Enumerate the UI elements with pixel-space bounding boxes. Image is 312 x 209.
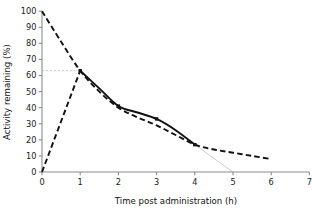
end-point-marker xyxy=(193,143,196,146)
x-tick-label: 5 xyxy=(230,177,235,187)
peak-point-marker xyxy=(79,69,82,72)
y-tick-label: 60 xyxy=(26,70,36,80)
y-tick-label: 40 xyxy=(26,103,36,113)
mid-point-marker xyxy=(117,104,120,107)
x-tick-label: 4 xyxy=(192,177,197,187)
absorption-phase-line xyxy=(42,71,80,172)
x-tick-label: 1 xyxy=(78,177,83,187)
y-tick-label: 80 xyxy=(26,38,36,48)
y-tick-label: 10 xyxy=(26,151,36,161)
observed-activity-line xyxy=(80,71,195,145)
x-axis-tick-labels: 01234567 xyxy=(39,177,312,187)
x-axis: 01234567 xyxy=(39,172,312,187)
x-tick-label: 2 xyxy=(116,177,121,187)
x-tick-label: 3 xyxy=(154,177,159,187)
y-tick-label: 100 xyxy=(21,6,37,16)
x-axis-title: Time post administration (h) xyxy=(114,196,237,206)
chart-canvas: 0102030405060708090100 01234567 Time pos… xyxy=(0,0,312,209)
data-series xyxy=(42,11,271,172)
y-tick-label: 50 xyxy=(26,87,36,97)
y-axis-title: Activity remaining (%) xyxy=(2,44,12,140)
observed-data-markers xyxy=(79,69,197,146)
y-axis-tick-labels: 0102030405060708090100 xyxy=(21,6,37,177)
y-axis: 0102030405060708090100 xyxy=(21,6,42,177)
y-tick-label: 20 xyxy=(26,135,36,145)
x-tick-label: 6 xyxy=(269,177,274,187)
fitted-elimination-line xyxy=(42,11,271,159)
late-point-marker xyxy=(155,117,158,120)
x-tick-label: 7 xyxy=(307,177,312,187)
y-tick-label: 70 xyxy=(26,54,36,64)
y-tick-label: 30 xyxy=(26,119,36,129)
reference-lines xyxy=(42,71,233,172)
y-tick-label: 0 xyxy=(31,167,36,177)
activity-remaining-chart: 0102030405060708090100 01234567 Time pos… xyxy=(0,0,312,209)
x-tick-label: 0 xyxy=(39,177,44,187)
y-tick-label: 90 xyxy=(26,22,36,32)
